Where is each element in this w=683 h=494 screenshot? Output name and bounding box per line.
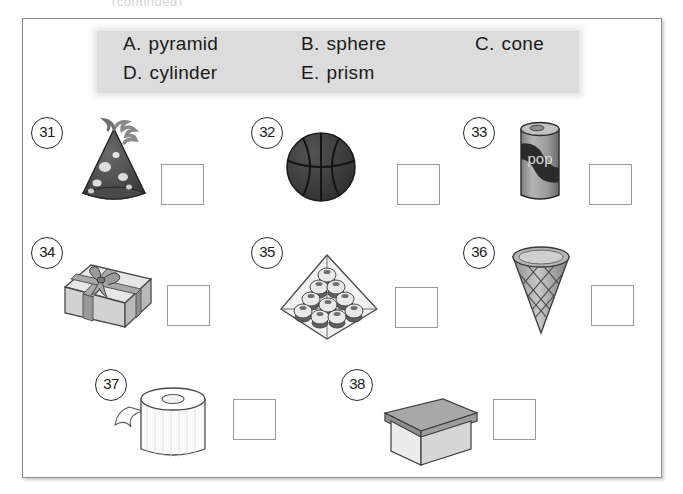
answer-bank-row-2: D.cylinder E.prism — [97, 62, 579, 93]
answer-option-b[interactable]: B.sphere — [301, 33, 386, 55]
cupcake-pyramid-icon — [273, 247, 381, 351]
paper-towel-roll-icon — [111, 377, 223, 471]
answer-option-d[interactable]: D.cylinder — [123, 62, 217, 84]
answer-box-31[interactable] — [161, 164, 204, 205]
worksheet-item-34: 34 — [31, 235, 241, 351]
can-label: pop — [527, 150, 552, 167]
worksheet-item-37: 37 — [95, 367, 305, 483]
answer-bank-row-1: A.pyramid B.sphere C.cone — [97, 33, 579, 64]
answer-box-33[interactable] — [589, 164, 632, 205]
answer-option-c[interactable]: C.cone — [475, 33, 544, 55]
party-hat-icon — [69, 115, 159, 214]
answer-option-e-letter: E. — [301, 62, 320, 83]
answer-option-d-label: cylinder — [150, 62, 218, 83]
item-number-36: 36 — [463, 237, 495, 269]
gift-box-icon — [55, 253, 165, 343]
item-number-31: 31 — [31, 117, 63, 149]
waffle-cone-icon — [505, 239, 577, 343]
answer-option-e[interactable]: E.prism — [301, 62, 375, 84]
worksheet-item-31: 31 — [31, 115, 241, 231]
item-number-38: 38 — [341, 369, 373, 401]
answer-box-35[interactable] — [395, 287, 438, 328]
worksheet-item-33: 33 — [463, 115, 673, 231]
answer-option-c-letter: C. — [475, 33, 495, 54]
clipped-header-text: (continued) — [112, 0, 312, 6]
answer-box-32[interactable] — [397, 164, 440, 205]
worksheet-item-32: 32 — [251, 115, 461, 231]
answer-option-d-letter: D. — [123, 62, 143, 83]
answer-box-36[interactable] — [591, 285, 634, 326]
worksheet-item-36: 36 — [463, 235, 673, 351]
worksheet-item-35: 35 — [251, 235, 461, 351]
answer-option-a-label: pyramid — [149, 33, 219, 54]
storage-box-icon — [369, 377, 487, 475]
basketball-icon — [281, 127, 361, 211]
answer-option-c-label: cone — [502, 33, 544, 54]
item-number-32: 32 — [251, 117, 283, 149]
answer-box-34[interactable] — [167, 285, 210, 326]
worksheet-page: A.pyramid B.sphere C.cone D.cylinder E.p… — [22, 18, 662, 478]
answer-option-b-letter: B. — [301, 33, 320, 54]
answer-box-37[interactable] — [233, 399, 276, 440]
item-number-33: 33 — [463, 117, 495, 149]
answer-option-b-label: sphere — [327, 33, 387, 54]
answer-box-38[interactable] — [493, 399, 536, 440]
answer-option-a[interactable]: A.pyramid — [123, 33, 218, 55]
worksheet-item-38: 38 — [341, 367, 551, 483]
answer-bank: A.pyramid B.sphere C.cone D.cylinder E.p… — [97, 31, 579, 93]
soda-can-icon: pop — [509, 117, 571, 213]
answer-option-e-label: prism — [327, 62, 375, 83]
answer-option-a-letter: A. — [123, 33, 142, 54]
